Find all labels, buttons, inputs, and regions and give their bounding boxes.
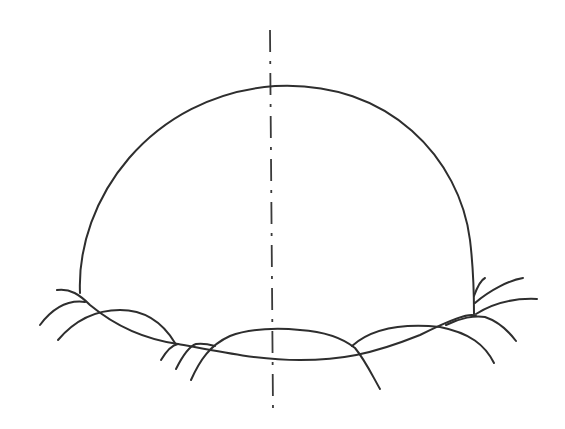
base-arch [161,344,178,360]
dome-sketch [0,0,565,429]
base-arch [352,326,494,363]
base-ellipse [57,290,476,360]
base-arch [474,278,485,296]
base-arch [476,299,537,314]
base-arch [446,316,516,341]
base-arch [191,329,300,380]
dome-outline [80,86,474,314]
sketch-canvas: Pencil sketch of a dome (hemisphere) res… [0,0,565,429]
base-arch [58,310,175,343]
